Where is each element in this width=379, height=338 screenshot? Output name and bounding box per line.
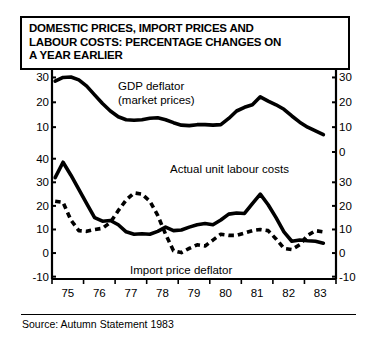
label-unit-labour-costs: Actual unit labour costs: [170, 163, 289, 175]
x-axis-tick-label: 79: [188, 287, 201, 299]
x-axis-tick-label: 81: [251, 287, 264, 299]
upper-right-tick-label: 20: [339, 96, 352, 108]
upper-left-tick-label: 30: [36, 71, 49, 83]
upper-left-tick-label: 10: [36, 121, 49, 133]
x-axis-tick-label: 82: [282, 287, 295, 299]
lower-left-tick-label: 40: [36, 153, 49, 165]
page-title-line-3: A YEAR EARLIER: [29, 49, 342, 63]
x-axis-tick-label: 76: [93, 287, 106, 299]
lower-left-tick-label: -10: [32, 271, 49, 283]
lower-left-tick-label: 30: [36, 176, 49, 188]
lower-right-tick-label: 20: [339, 200, 352, 212]
chart-svg: 1020300102030-10010203040-10010203075767…: [0, 66, 379, 311]
upper-left-tick-label: 20: [36, 96, 49, 108]
series-import-price-deflator: [55, 193, 323, 253]
label-gdp-deflator: GDP deflator: [118, 80, 184, 92]
x-axis-tick-label: 78: [156, 287, 169, 299]
lower-right-tick-label: -10: [339, 271, 356, 283]
lower-right-tick-label: 30: [339, 176, 352, 188]
label-import-price-deflator: Import price deflator: [130, 264, 232, 276]
x-axis-tick-label: 77: [124, 287, 137, 299]
label-gdp-deflator-sub: (market prices): [118, 94, 195, 106]
page-title-line-2: LABOUR COSTS: PERCENTAGE CHANGES ON: [29, 36, 342, 50]
lower-left-tick-label: 20: [36, 200, 49, 212]
upper-right-tick-label: 30: [339, 71, 352, 83]
chart-figure: DOMESTIC PRICES, IMPORT PRICES AND LABOU…: [0, 0, 379, 338]
x-axis-tick-label: 75: [61, 287, 74, 299]
source-note: Source: Autumn Statement 1983: [22, 318, 174, 330]
upper-right-tick-label: 0: [339, 146, 345, 158]
lower-left-tick-label: 10: [36, 223, 49, 235]
lower-right-tick-label: 0: [339, 247, 345, 259]
chart-title-box: DOMESTIC PRICES, IMPORT PRICES AND LABOU…: [20, 16, 350, 70]
source-divider: [21, 314, 356, 315]
lower-left-tick-label: 0: [43, 247, 49, 259]
plot-area: 1020300102030-10010203040-10010203075767…: [0, 66, 379, 311]
lower-right-tick-label: 10: [339, 223, 352, 235]
x-axis-tick-label: 83: [314, 287, 327, 299]
page-title-line-1: DOMESTIC PRICES, IMPORT PRICES AND: [29, 22, 342, 36]
x-axis-tick-label: 80: [219, 287, 232, 299]
upper-right-tick-label: 10: [339, 121, 352, 133]
